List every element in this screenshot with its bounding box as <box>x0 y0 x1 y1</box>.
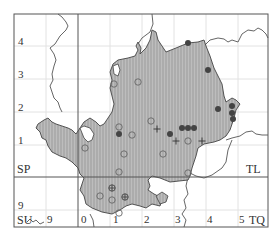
filled-marker <box>167 131 173 137</box>
x-tick-0: 0 <box>81 214 87 225</box>
filled-marker <box>179 125 185 131</box>
y-tick-1: 1 <box>18 135 24 146</box>
filled-marker <box>205 67 211 73</box>
filled-marker <box>215 106 221 112</box>
county-area <box>36 30 240 214</box>
y-tick-9: 9 <box>18 200 24 211</box>
x-tick-2: 2 <box>144 214 150 225</box>
x-tick-5: 5 <box>239 214 245 225</box>
filled-marker <box>185 125 191 131</box>
y-tick-3: 3 <box>18 69 24 80</box>
square-label-tl: TL <box>246 163 261 175</box>
filled-marker <box>191 125 197 131</box>
x-tick-9: 9 <box>47 214 53 225</box>
filled-marker <box>229 110 235 116</box>
distribution-map <box>0 0 276 237</box>
filled-marker <box>229 103 235 109</box>
square-label-sp: SP <box>17 163 30 175</box>
plus-circle-marker <box>109 185 115 191</box>
x-tick-3: 3 <box>175 214 181 225</box>
x-tick-4: 4 <box>207 214 213 225</box>
square-label-su: SU <box>17 214 32 226</box>
square-label-tq: TQ <box>249 214 265 226</box>
filled-marker <box>116 131 122 137</box>
filled-marker <box>230 116 236 122</box>
y-tick-4: 4 <box>18 36 24 47</box>
filled-marker <box>185 40 191 46</box>
y-tick-2: 2 <box>18 102 24 113</box>
x-tick-1: 1 <box>113 214 119 225</box>
inlet <box>113 64 120 76</box>
plus-circle-marker <box>122 194 128 200</box>
